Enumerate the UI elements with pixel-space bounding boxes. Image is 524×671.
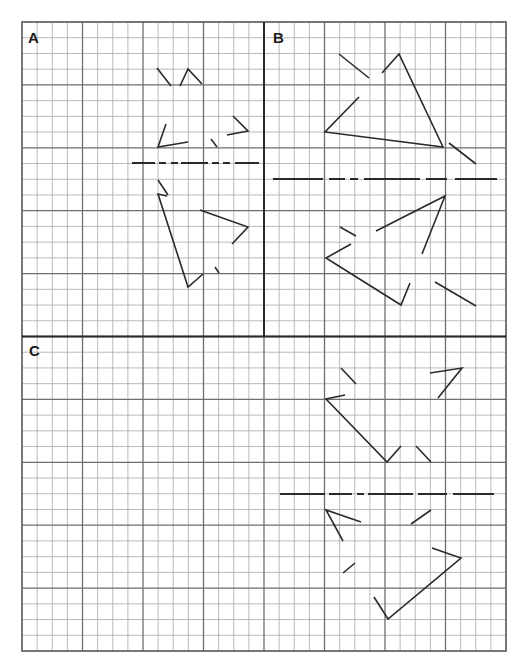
figure-segment: [340, 227, 356, 236]
reflection-figure: A B C: [0, 0, 524, 671]
figure-segment: [343, 563, 355, 573]
figure-segment: [157, 68, 171, 86]
figure-segment: [449, 143, 476, 164]
figure-segment: [341, 368, 356, 384]
figure-segment: [211, 139, 217, 147]
figure-segment: [411, 510, 431, 524]
figure-segment: [326, 395, 401, 462]
panel-label-b: B: [273, 29, 284, 46]
figure-segment: [339, 54, 369, 78]
panel-label-a: A: [28, 29, 39, 46]
figure-segment: [180, 69, 202, 86]
figure-segment: [200, 210, 248, 244]
figure-segment: [374, 548, 461, 619]
figure-segment: [158, 180, 168, 195]
figure-segment: [435, 282, 476, 306]
grid-figure-canvas: A B C: [0, 0, 524, 671]
figure-segment: [416, 446, 431, 462]
panel-label-c: C: [29, 342, 40, 359]
figure-segment: [326, 244, 410, 305]
figure-segment: [376, 196, 445, 254]
